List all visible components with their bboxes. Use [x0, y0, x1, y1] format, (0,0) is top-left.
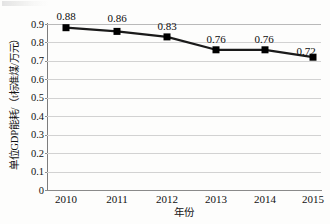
data-label: 0.72: [296, 45, 315, 57]
data-label: 0.76: [206, 33, 225, 45]
x-tick-label: 2015: [302, 193, 324, 206]
data-label: 0.76: [254, 33, 273, 45]
y-tick-label: 0.3: [20, 129, 44, 140]
y-tick-label: 0.7: [20, 55, 44, 66]
scan-artifact: [2, 1, 48, 6]
y-tick-label: 0.8: [20, 37, 44, 48]
x-tick-label: 2014: [254, 193, 276, 206]
plot-area: [47, 24, 321, 190]
data-point-marker: [114, 28, 121, 35]
data-point-marker: [63, 24, 70, 31]
y-tick-label: 0.2: [20, 148, 44, 159]
series-line-group: [47, 24, 321, 190]
y-tick-label: 0: [20, 185, 44, 196]
data-label: 0.86: [107, 12, 126, 24]
data-point-marker: [262, 46, 269, 53]
x-tick-label: 2010: [55, 193, 77, 206]
energy-intensity-line-chart: 单位GDP能耗/（t标准煤/万元） 0.9 0.8 0.7 0.6 0.5 0.…: [0, 0, 330, 224]
y-tick-label: 0.1: [20, 166, 44, 177]
y-tick-label: 0.5: [20, 92, 44, 103]
y-tick-label: 0.9: [20, 19, 44, 30]
x-axis-tick-labels: 2010 2011 2012 2013 2014 2015: [47, 193, 321, 207]
y-tick-label: 0.4: [20, 111, 44, 122]
data-point-marker: [213, 46, 220, 53]
data-label: 0.83: [157, 20, 176, 32]
y-tick-label: 0.6: [20, 74, 44, 85]
data-label: 0.88: [56, 10, 75, 22]
series-line: [66, 28, 313, 58]
x-axis-line: [47, 190, 322, 191]
data-point-marker: [164, 33, 171, 40]
x-axis-title: 年份: [47, 206, 321, 219]
x-tick-label: 2011: [106, 193, 128, 206]
y-axis-tick-labels: 0.9 0.8 0.7 0.6 0.5 0.4 0.3 0.2 0.1 0: [20, 16, 44, 196]
x-tick-label: 2013: [205, 193, 227, 206]
x-tick-label: 2012: [156, 193, 178, 206]
